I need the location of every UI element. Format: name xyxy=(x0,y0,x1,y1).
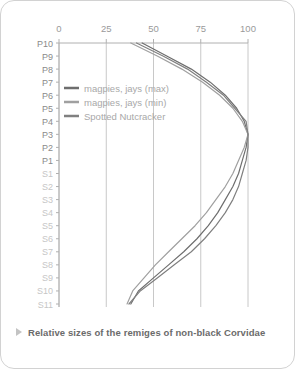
y-axis-tick-label: S2 xyxy=(42,182,53,192)
y-axis-tick-label: S9 xyxy=(42,273,53,283)
chart-plot-area: 0255075100P10P9P8P7P6P5P4P3P2P1S1S2S3S4S… xyxy=(1,1,295,313)
y-axis-tick-label: S4 xyxy=(42,208,53,218)
remiges-line-chart: 0255075100P10P9P8P7P6P5P4P3P2P1S1S2S3S4S… xyxy=(1,1,295,313)
chart-caption: Relative sizes of the remiges of non-bla… xyxy=(1,317,295,347)
y-axis-tick-label: S3 xyxy=(42,195,53,205)
y-axis-tick-label: P5 xyxy=(42,104,53,114)
legend-label: magpies, jays (max) xyxy=(84,83,169,94)
x-axis-tick-label: 75 xyxy=(195,23,206,34)
y-axis-tick-label: P3 xyxy=(42,130,53,140)
y-axis-tick-label: S6 xyxy=(42,234,53,244)
y-axis-tick-label: S1 xyxy=(42,169,53,179)
caption-text: Relative sizes of the remiges of non-bla… xyxy=(28,327,265,338)
y-axis-tick-label: S7 xyxy=(42,247,53,257)
y-axis-tick-label: P4 xyxy=(42,117,53,127)
y-axis-tick-label: P8 xyxy=(42,65,53,75)
x-axis-tick-label: 0 xyxy=(56,23,61,34)
y-axis-tick-label: S11 xyxy=(38,300,53,310)
legend-label: Spotted Nutcracker xyxy=(84,111,165,122)
y-axis-tick-label: P9 xyxy=(42,52,53,62)
legend-label: magpies, jays (min) xyxy=(84,97,166,108)
triangle-right-icon xyxy=(16,328,22,336)
y-axis-tick-label: S10 xyxy=(37,286,53,296)
x-axis-tick-label: 100 xyxy=(240,23,256,34)
x-axis-tick-label: 50 xyxy=(148,23,159,34)
x-axis-tick-label: 25 xyxy=(101,23,112,34)
chart-card: 0255075100P10P9P8P7P6P5P4P3P2P1S1S2S3S4S… xyxy=(0,0,295,369)
y-axis-tick-label: P10 xyxy=(37,39,53,49)
y-axis-tick-label: P7 xyxy=(42,78,53,88)
y-axis-tick-label: S8 xyxy=(42,260,53,270)
y-axis-tick-label: P6 xyxy=(42,91,53,101)
y-axis-tick-label: S5 xyxy=(42,221,53,231)
y-axis-tick-label: P2 xyxy=(42,143,53,153)
y-axis-tick-label: P1 xyxy=(42,156,53,166)
